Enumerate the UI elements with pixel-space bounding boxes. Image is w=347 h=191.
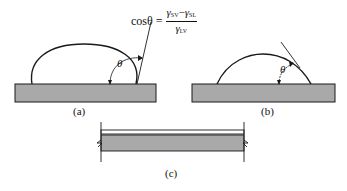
formula-fraction: γSV−γSL γLV [166, 6, 198, 37]
substrate-c [101, 135, 244, 151]
sub-sv: SV [171, 12, 179, 18]
panel-b [192, 42, 335, 102]
formula-lhs: cosθ = [131, 14, 163, 29]
panel-label-c: (c) [165, 168, 177, 179]
formula-denominator: γLV [175, 22, 187, 37]
drop-b [217, 54, 311, 84]
liquid-film-c [101, 130, 244, 134]
panel-label-a: (a) [73, 106, 85, 117]
sub-sl: SL [189, 12, 196, 18]
theta-label-b: θ [280, 64, 285, 75]
formula-numerator: γSV−γSL [166, 6, 198, 22]
young-equation: cosθ = γSV−γSL γLV [131, 6, 197, 37]
sub-lv: LV [180, 28, 187, 34]
theta-label-a: θ [117, 58, 122, 69]
panel-label-b: (b) [261, 106, 274, 117]
substrate-b [192, 84, 335, 102]
panel-c [97, 122, 248, 162]
substrate-a [15, 84, 156, 102]
